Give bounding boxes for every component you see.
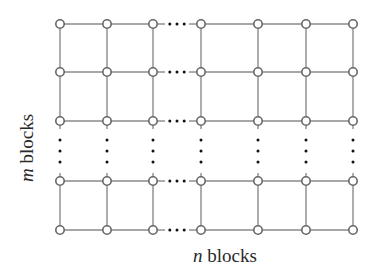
ellipsis-dot <box>106 150 109 153</box>
grid-node <box>103 20 111 28</box>
grid-node <box>103 68 111 76</box>
ellipsis-dot <box>183 23 186 26</box>
grid-node <box>254 20 262 28</box>
grid-node <box>302 177 310 185</box>
ellipsis-dot <box>176 120 179 123</box>
grid-node <box>149 68 157 76</box>
n-blocks-text: blocks <box>203 245 257 266</box>
grid-node <box>349 20 357 28</box>
grid-node <box>254 177 262 185</box>
grid-node <box>349 68 357 76</box>
grid-node <box>254 226 262 234</box>
grid-node <box>56 20 64 28</box>
grid-node <box>149 20 157 28</box>
ellipsis-dot <box>305 161 308 164</box>
ellipsis-dot <box>183 120 186 123</box>
ellipsis-dot <box>176 23 179 26</box>
grid-node <box>197 68 205 76</box>
ellipsis-dot <box>152 150 155 153</box>
grid-node <box>302 20 310 28</box>
grid-node <box>149 117 157 125</box>
ellipsis-dot <box>183 180 186 183</box>
grid-node <box>197 226 205 234</box>
ellipsis-dot <box>305 150 308 153</box>
ellipsis-dot <box>59 161 62 164</box>
n-variable: n <box>193 245 203 266</box>
ellipsis-dot <box>59 150 62 153</box>
ellipsis-dot <box>176 180 179 183</box>
grid-node <box>254 68 262 76</box>
ellipsis-dot <box>168 23 171 26</box>
ellipsis-dot <box>183 71 186 74</box>
grid-node <box>254 117 262 125</box>
grid-node <box>149 177 157 185</box>
grid-edges <box>60 24 353 230</box>
ellipsis-dot <box>257 139 260 142</box>
ellipsis-dot <box>352 139 355 142</box>
ellipsis-dot <box>200 150 203 153</box>
grid-node <box>349 117 357 125</box>
ellipsis-dot <box>352 150 355 153</box>
ellipsis-dot <box>200 161 203 164</box>
ellipsis-dot <box>200 139 203 142</box>
grid-node <box>302 226 310 234</box>
grid-diagram: n blocks m blocks <box>0 0 377 280</box>
m-blocks-label: m blocks <box>16 114 37 182</box>
ellipsis-dot <box>168 229 171 232</box>
m-blocks-text: blocks <box>16 114 37 168</box>
ellipsis-dot <box>305 139 308 142</box>
grid-node <box>197 20 205 28</box>
ellipsis-dot <box>168 71 171 74</box>
ellipsis-dot <box>183 229 186 232</box>
m-variable: m <box>16 168 37 182</box>
grid-node <box>56 117 64 125</box>
ellipsis-dot <box>176 229 179 232</box>
ellipsis-dots <box>59 23 355 232</box>
ellipsis-dot <box>257 150 260 153</box>
grid-nodes <box>56 20 357 234</box>
grid-node <box>103 177 111 185</box>
ellipsis-dot <box>59 139 62 142</box>
ellipsis-dot <box>176 71 179 74</box>
grid-node <box>197 177 205 185</box>
ellipsis-dot <box>106 139 109 142</box>
grid-node <box>302 68 310 76</box>
grid-node <box>103 226 111 234</box>
ellipsis-dot <box>152 161 155 164</box>
grid-node <box>103 117 111 125</box>
grid-node <box>349 177 357 185</box>
ellipsis-dot <box>168 180 171 183</box>
n-blocks-label: n blocks <box>193 245 257 266</box>
ellipsis-dot <box>352 161 355 164</box>
grid-node <box>349 226 357 234</box>
ellipsis-dot <box>152 139 155 142</box>
grid-node <box>197 117 205 125</box>
grid-node <box>302 117 310 125</box>
grid-node <box>149 226 157 234</box>
grid-node <box>56 226 64 234</box>
grid-node <box>56 177 64 185</box>
ellipsis-dot <box>257 161 260 164</box>
ellipsis-dot <box>168 120 171 123</box>
ellipsis-dot <box>106 161 109 164</box>
grid-node <box>56 68 64 76</box>
